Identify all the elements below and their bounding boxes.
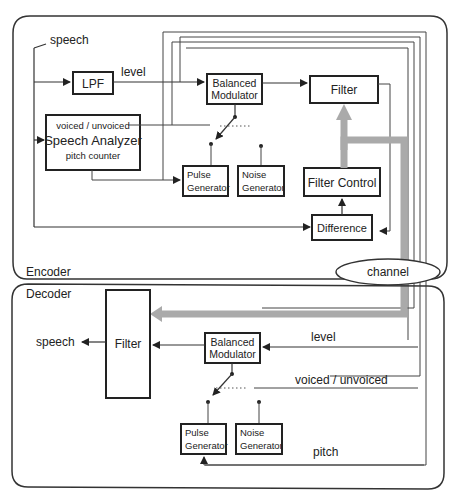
filter-control-label: Filter Control <box>308 176 377 190</box>
control-to-filter-arrowhead <box>336 104 352 120</box>
decoder-voiced-label: voiced / unvoiced <box>295 373 388 387</box>
decoder-level-label: level <box>311 330 336 344</box>
encoder-level-label: level <box>121 65 146 79</box>
decoder-pulse-line1: Pulse <box>185 427 209 438</box>
encoder-label: Encoder <box>26 265 71 279</box>
decoder-noise-line1: Noise <box>240 427 264 438</box>
analyzer-title: Speech Analyzer <box>44 133 142 148</box>
transmission-lines <box>163 32 426 465</box>
vocoder-diagram: Encoder speech LPF level Balanced Modula… <box>0 0 458 493</box>
lpf-label: LPF <box>82 77 104 91</box>
encoder-noise-line1: Noise <box>242 169 266 180</box>
pitch-line <box>163 32 426 465</box>
channel-arrowhead <box>150 306 162 322</box>
decoder-switch-arm <box>213 374 232 395</box>
analyzer-pitch-label: pitch counter <box>66 150 120 161</box>
encoder-modulator-line2: Modulator <box>211 89 258 101</box>
decoder-pulse-line2: Generator <box>185 440 228 451</box>
encoder-speech-input-label: speech <box>50 33 89 47</box>
channel-label: channel <box>367 265 409 279</box>
decoder-pitch-label: pitch <box>313 445 338 459</box>
difference-label: Difference <box>317 222 367 234</box>
filter-to-difference-line <box>378 84 390 231</box>
encoder-noise-line2: Generator <box>242 182 285 193</box>
decoder-label: Decoder <box>26 287 71 301</box>
encoder-section: Encoder speech LPF level Balanced Modula… <box>13 16 447 279</box>
encoder-switch-arm <box>216 117 235 139</box>
decoder-noise-line2: Generator <box>240 440 283 451</box>
decoder-filter-label: Filter <box>115 337 142 351</box>
encoder-pulse-line1: Pulse <box>187 169 211 180</box>
encoder-filter-label: Filter <box>331 83 358 97</box>
analyzer-voiced-label: voiced / unvoiced <box>56 120 129 131</box>
decoder-modulator-line1: Balanced <box>211 336 255 348</box>
speech-tick <box>34 44 46 48</box>
encoder-pulse-line2: Generator <box>187 182 230 193</box>
encoder-modulator-line1: Balanced <box>213 77 257 89</box>
pitch-to-pulse-arrow <box>92 170 180 180</box>
decoder-modulator-line2: Modulator <box>209 348 256 360</box>
decoder-speech-output-label: speech <box>36 335 75 349</box>
